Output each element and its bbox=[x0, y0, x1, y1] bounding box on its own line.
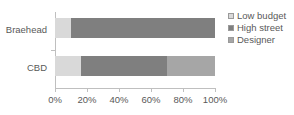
plot-area bbox=[55, 12, 215, 88]
x-axis-tick-80 bbox=[183, 88, 184, 92]
legend-item-low-budget: Low budget bbox=[228, 10, 294, 21]
low-budget-swatch-icon bbox=[228, 13, 234, 19]
bar-row-braehead bbox=[55, 18, 215, 38]
x-axis-tick-100 bbox=[215, 88, 216, 92]
stacked-bar-chart: Braehead CBD 0% 20% 40% 60% 80% 100% Low… bbox=[0, 0, 294, 115]
legend-item-designer: Designer bbox=[228, 34, 294, 45]
legend-label-low-budget: Low budget bbox=[237, 10, 286, 21]
designer-swatch-icon bbox=[228, 37, 234, 43]
bar-segment-braehead-high-street bbox=[71, 18, 215, 38]
x-axis-label-100: 100% bbox=[195, 94, 235, 105]
bar-segment-cbd-low-budget bbox=[55, 56, 81, 76]
high-street-swatch-icon bbox=[228, 25, 234, 31]
x-axis-tick-20 bbox=[87, 88, 88, 92]
legend-item-high-street: High street bbox=[228, 22, 294, 33]
chart-legend: Low budget High street Designer bbox=[228, 10, 294, 46]
legend-label-designer: Designer bbox=[237, 34, 275, 45]
x-axis-tick-60 bbox=[151, 88, 152, 92]
x-axis-line bbox=[55, 88, 215, 89]
y-axis-label-braehead: Braehead bbox=[0, 24, 47, 35]
legend-label-high-street: High street bbox=[237, 22, 283, 33]
bar-segment-cbd-high-street bbox=[81, 56, 167, 76]
x-axis-tick-0 bbox=[55, 88, 56, 92]
bar-row-cbd bbox=[55, 56, 215, 76]
y-axis-label-cbd: CBD bbox=[0, 62, 47, 73]
bar-segment-cbd-designer bbox=[167, 56, 215, 76]
x-axis-tick-40 bbox=[119, 88, 120, 92]
bar-segment-braehead-low-budget bbox=[55, 18, 71, 38]
